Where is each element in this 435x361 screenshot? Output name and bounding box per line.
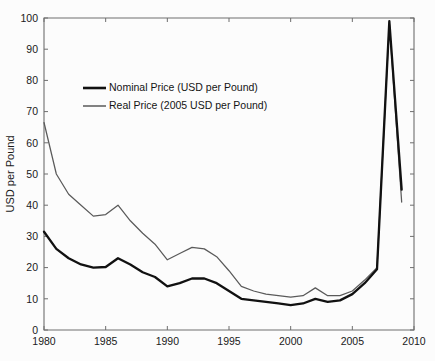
y-tick-label: 70	[26, 105, 38, 117]
plot-background	[44, 18, 414, 330]
x-tick-label: 1980	[32, 335, 56, 347]
y-tick-label: 100	[20, 12, 38, 24]
uranium-price-line-chart: 0102030405060708090100 19801985199019952…	[0, 0, 435, 361]
y-tick-label: 0	[32, 324, 38, 336]
y-tick-label: 60	[26, 137, 38, 149]
y-tick-label: 10	[26, 293, 38, 305]
y-tick-label: 80	[26, 74, 38, 86]
x-tick-label: 1985	[94, 335, 118, 347]
y-tick-label: 30	[26, 230, 38, 242]
y-axis-tick-labels: 0102030405060708090100	[20, 12, 38, 336]
x-axis-tick-labels: 1980198519901995200020052010	[32, 335, 426, 347]
y-tick-label: 20	[26, 261, 38, 273]
x-tick-label: 2010	[402, 335, 426, 347]
legend-label-real: Real Price (2005 USD per Pound)	[109, 99, 267, 111]
y-axis-title: USD per Pound	[4, 135, 16, 212]
x-tick-label: 2005	[341, 335, 365, 347]
y-tick-label: 40	[26, 199, 38, 211]
x-tick-label: 1995	[217, 335, 241, 347]
y-tick-label: 90	[26, 43, 38, 55]
chart-figure: 0102030405060708090100 19801985199019952…	[0, 0, 435, 361]
x-tick-label: 1990	[156, 335, 180, 347]
y-tick-label: 50	[26, 168, 38, 180]
legend-label-nominal: Nominal Price (USD per Pound)	[109, 81, 258, 93]
x-tick-label: 2000	[279, 335, 303, 347]
